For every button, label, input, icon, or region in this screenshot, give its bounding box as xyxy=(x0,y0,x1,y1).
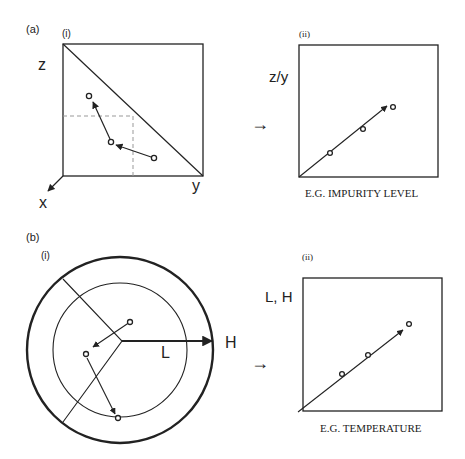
panel-b-ii-label: (ii) xyxy=(302,252,313,262)
diagonal-line xyxy=(63,44,203,176)
panel-a: (a) (i) z y x → (ii) z/y E.G xyxy=(26,23,438,211)
trajectory-arrow-2 xyxy=(93,102,110,139)
panel-a-i: (i) z y x xyxy=(38,28,203,211)
high-radius-label: H xyxy=(225,334,237,351)
panel-b-i: (i) L H xyxy=(27,250,237,443)
trajectory-arrow-2 xyxy=(87,358,115,414)
data-point xyxy=(328,151,333,156)
panel-b-i-label: (i) xyxy=(41,250,50,261)
y-axis-label: L, H xyxy=(265,288,293,305)
low-radius-label: L xyxy=(161,344,170,361)
panel-a-label: (a) xyxy=(26,23,39,35)
data-point xyxy=(151,155,156,160)
wedge-lines xyxy=(63,279,122,422)
x-axis-caption: E.G. TEMPERATURE xyxy=(320,422,422,434)
panel-b-label: (b) xyxy=(26,231,39,243)
data-point xyxy=(391,105,396,110)
data-point xyxy=(361,127,366,132)
data-point xyxy=(86,93,91,98)
data-point xyxy=(366,353,371,358)
panel-a-i-label: (i) xyxy=(62,28,71,39)
data-point xyxy=(116,416,121,421)
plot-frame xyxy=(299,45,438,177)
data-point xyxy=(108,139,113,144)
dashed-guide xyxy=(63,116,133,176)
y-axis-label: y xyxy=(192,177,200,194)
figure-canvas: (a) (i) z y x → (ii) z/y E.G xyxy=(0,0,465,459)
panel-a-ii: (ii) z/y E.G. IMPURITY LEVEL xyxy=(269,29,438,199)
x-axis-label: x xyxy=(39,194,47,211)
panel-b: (b) (i) L H → (ii) L, H E.G. TEMPE xyxy=(26,231,442,443)
x-axis-arrow xyxy=(48,176,63,191)
data-point xyxy=(84,352,89,357)
outer-circle xyxy=(27,257,213,443)
plot-frame xyxy=(303,278,442,411)
y-axis-label: z/y xyxy=(269,68,289,85)
trend-arrow xyxy=(299,106,387,177)
z-axis-label: z xyxy=(38,56,46,73)
trajectory-arrow-1 xyxy=(116,145,154,158)
panel-a-ii-label: (ii) xyxy=(299,29,310,39)
trajectory-arrow-1 xyxy=(93,322,130,347)
data-point xyxy=(407,322,412,327)
x-axis-caption: E.G. IMPURITY LEVEL xyxy=(305,187,419,199)
data-point xyxy=(128,320,133,325)
trend-arrow xyxy=(298,330,403,412)
panel-b-ii: (ii) L, H E.G. TEMPERATURE xyxy=(265,252,442,434)
transition-arrow-a: → xyxy=(251,114,269,134)
transition-arrow-b: → xyxy=(251,353,269,373)
data-point xyxy=(340,372,345,377)
